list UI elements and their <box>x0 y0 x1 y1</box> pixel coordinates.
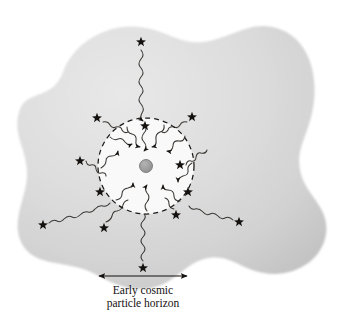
figure-root: Early cosmic particle horizon <box>0 0 354 328</box>
early-cosmic-particle-horizon-figure: Early cosmic particle horizon <box>0 0 354 328</box>
central-observer-particle <box>140 160 153 173</box>
caption-line-1: Early cosmic <box>113 284 173 297</box>
caption-line-2: particle horizon <box>107 297 180 310</box>
